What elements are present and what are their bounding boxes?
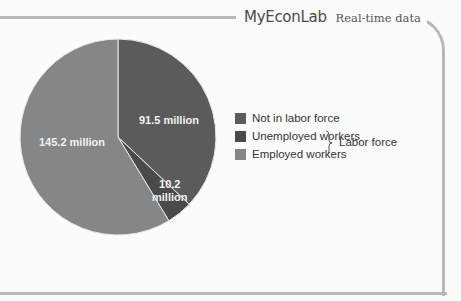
legend-label: Not in labor force (252, 112, 340, 124)
label-not-in-labor-force: 91.5 million (139, 114, 199, 127)
swatch-not-in-labor-force (235, 113, 246, 124)
label-unemployed: 10.2 million (152, 178, 187, 204)
label-unemployed-value: 10.2 (152, 178, 187, 191)
label-unemployed-unit: million (152, 191, 187, 204)
brace-icon (325, 130, 333, 156)
swatch-employed (235, 149, 246, 160)
pie-chart (0, 0, 461, 301)
labor-force-label: Labor force (339, 136, 397, 148)
swatch-unemployed (235, 131, 246, 142)
legend-item-not-in-labor-force: Not in labor force (235, 109, 360, 127)
label-employed: 145.2 million (39, 136, 105, 149)
